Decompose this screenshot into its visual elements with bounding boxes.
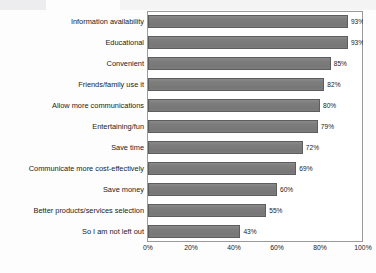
category-label: Allow more communications xyxy=(0,101,144,110)
bar-value-label: 93% xyxy=(351,16,363,27)
bar-value-label: 82% xyxy=(327,79,340,90)
category-label: Convenient xyxy=(0,59,144,68)
x-axis: 0%20%40%60%80%100% xyxy=(148,244,363,258)
bar-value-label: 85% xyxy=(334,58,347,69)
bar-track: 72% xyxy=(148,141,363,154)
bar-row: Communicate more cost-effectively69% xyxy=(0,158,376,179)
x-axis-tick-label: 20% xyxy=(184,244,198,251)
bar-rows-container: Information availability93%Educational93… xyxy=(0,11,376,242)
bar xyxy=(148,204,266,217)
bar-track: 55% xyxy=(148,204,363,217)
category-label: Educational xyxy=(0,38,144,47)
bar xyxy=(148,183,277,196)
bar xyxy=(148,120,318,133)
bar-track: 69% xyxy=(148,162,363,175)
bar xyxy=(148,99,320,112)
bar xyxy=(148,162,296,175)
bar-track: 85% xyxy=(148,57,363,70)
bar-row: Entertaining/fun79% xyxy=(0,116,376,137)
bar-row: Information availability93% xyxy=(0,11,376,32)
x-axis-tick-label: 0% xyxy=(143,244,153,251)
bar-row: Friends/family use it82% xyxy=(0,74,376,95)
bar xyxy=(148,141,303,154)
bar-row: Better products/services selection55% xyxy=(0,200,376,221)
category-label: Friends/family use it xyxy=(0,80,144,89)
bar-row: Educational93% xyxy=(0,32,376,53)
bar-value-label: 80% xyxy=(323,100,336,111)
bar-value-label: 43% xyxy=(243,226,256,237)
bar-value-label: 93% xyxy=(351,37,363,48)
chart-screenshot: Information availability93%Educational93… xyxy=(0,0,376,273)
category-label: Save money xyxy=(0,185,144,194)
category-label: Entertaining/fun xyxy=(0,122,144,131)
bar-value-label: 79% xyxy=(321,121,334,132)
category-label: Communicate more cost-effectively xyxy=(0,164,144,173)
bar xyxy=(148,225,240,238)
horizontal-bar-chart: Information availability93%Educational93… xyxy=(0,0,376,273)
bar-value-label: 60% xyxy=(280,184,293,195)
x-axis-tick-label: 80% xyxy=(313,244,327,251)
bar xyxy=(148,15,348,28)
bar xyxy=(148,57,331,70)
bar-value-label: 69% xyxy=(299,163,312,174)
bar-track: 60% xyxy=(148,183,363,196)
bar-value-label: 55% xyxy=(269,205,282,216)
x-axis-tick-label: 60% xyxy=(270,244,284,251)
bar-row: So I am not left out43% xyxy=(0,221,376,242)
category-label: Information availability xyxy=(0,17,144,26)
bar xyxy=(148,78,324,91)
bar-track: 79% xyxy=(148,120,363,133)
bar xyxy=(148,36,348,49)
x-axis-tick-label: 100% xyxy=(354,244,371,251)
bar-track: 93% xyxy=(148,36,363,49)
bar-row: Save time72% xyxy=(0,137,376,158)
category-label: Save time xyxy=(0,143,144,152)
x-axis-tick-label: 40% xyxy=(227,244,241,251)
bar-value-label: 72% xyxy=(306,142,319,153)
category-label: So I am not left out xyxy=(0,227,144,236)
bar-track: 93% xyxy=(148,15,363,28)
bar-track: 82% xyxy=(148,78,363,91)
bar-track: 80% xyxy=(148,99,363,112)
category-label: Better products/services selection xyxy=(0,206,144,215)
bar-row: Allow more communications80% xyxy=(0,95,376,116)
bar-track: 43% xyxy=(148,225,363,238)
bar-row: Convenient85% xyxy=(0,53,376,74)
bar-row: Save money60% xyxy=(0,179,376,200)
